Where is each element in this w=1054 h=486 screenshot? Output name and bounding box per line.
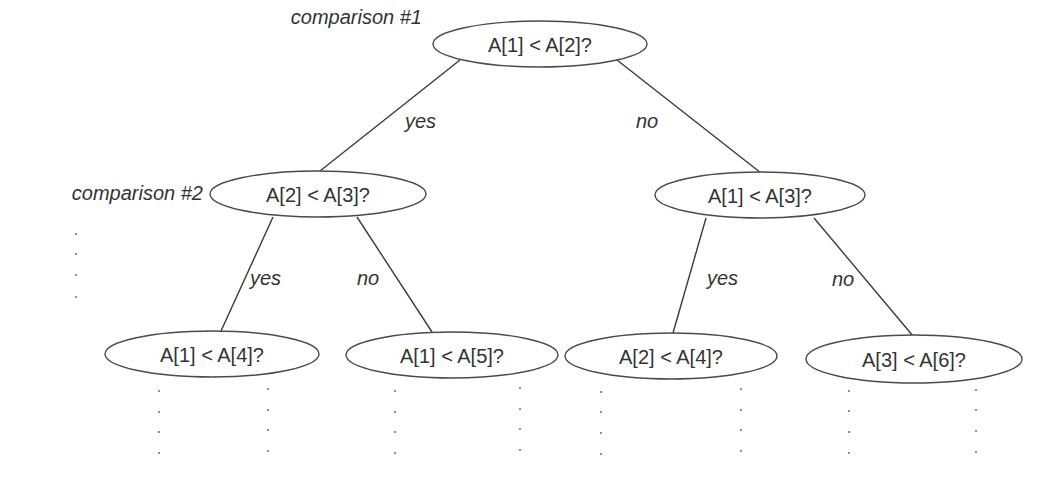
dot-icon: [848, 410, 850, 412]
dot-icon: [975, 451, 977, 453]
dot-icon: [75, 296, 77, 298]
dot-icon: [519, 449, 521, 451]
node-label: A[1] < A[4]?: [160, 344, 264, 366]
dot-icon: [740, 388, 742, 390]
ellipsis-dots-l3-4-left: [848, 390, 850, 454]
dot-icon: [519, 387, 521, 389]
level-label-comparison-1: comparison #1: [291, 6, 422, 28]
dot-icon: [394, 411, 396, 413]
edge-label-no: no: [636, 110, 658, 132]
dot-icon: [848, 452, 850, 454]
node-label: A[1] < A[2]?: [488, 34, 592, 56]
dot-icon: [267, 409, 269, 411]
dot-icon: [848, 431, 850, 433]
node-label: A[3] < A[6]?: [862, 349, 966, 371]
edge-root-to-l2-left: yes: [320, 60, 460, 171]
dot-icon: [519, 428, 521, 430]
dot-icon: [600, 453, 602, 455]
dot-icon: [600, 432, 602, 434]
dot-icon: [740, 429, 742, 431]
ellipsis-dots-l3-1-left: [158, 390, 160, 454]
ellipsis-dots-l3-2-right: [519, 387, 521, 451]
node-label: A[1] < A[3]?: [708, 185, 812, 207]
dot-icon: [158, 452, 160, 454]
node-l3-4: A[3] < A[6]?: [806, 335, 1022, 383]
node-label: A[1] < A[5]?: [400, 345, 504, 367]
ellipsis-dots-l3-3-right: [740, 388, 742, 452]
ellipsis-dots-l3-4-right: [975, 389, 977, 453]
edge-root-to-l2-right: no: [617, 60, 761, 173]
dot-icon: [267, 388, 269, 390]
dot-icon: [740, 450, 742, 452]
dot-icon: [158, 431, 160, 433]
edge-label-no: no: [832, 268, 854, 290]
edge-line: [673, 218, 706, 333]
decision-tree-diagram: yesnoyesnoyesno A[1] < A[2]?A[2] < A[3]?…: [0, 0, 1054, 486]
dot-icon: [519, 408, 521, 410]
dot-icon: [394, 452, 396, 454]
dot-icon: [158, 390, 160, 392]
node-l3-3: A[2] < A[4]?: [565, 333, 777, 379]
node-l3-1: A[1] < A[4]?: [105, 331, 319, 377]
dot-icon: [740, 409, 742, 411]
node-label: A[2] < A[3]?: [266, 184, 370, 206]
edge-label-yes: yes: [705, 267, 738, 289]
nodes: A[1] < A[2]?A[2] < A[3]?A[1] < A[3]?A[1]…: [105, 21, 1022, 383]
edge-l2-left-to-l3-2: no: [357, 217, 432, 332]
dot-icon: [75, 233, 77, 235]
ellipsis-dots-left-margin: [75, 233, 77, 298]
ellipsis-dots-l3-3-left: [600, 391, 602, 455]
node-root: A[1] < A[2]?: [433, 21, 647, 67]
edge-l2-right-to-l3-4: no: [814, 218, 913, 336]
dot-icon: [75, 274, 77, 276]
ellipsis-dots-l3-1-right: [267, 388, 269, 452]
node-label: A[2] < A[4]?: [619, 346, 723, 368]
dot-icon: [158, 411, 160, 413]
dot-icon: [975, 430, 977, 432]
dot-icon: [600, 411, 602, 413]
ellipsis-dots-l3-2-left: [394, 390, 396, 454]
dot-icon: [394, 431, 396, 433]
edge-l2-left-to-l3-1: yes: [221, 217, 281, 331]
dot-icon: [267, 450, 269, 452]
edge-l2-right-to-l3-3: yes: [673, 218, 738, 333]
node-l2-left: A[2] < A[3]?: [210, 171, 426, 217]
edge-label-yes: yes: [248, 267, 281, 289]
dot-icon: [394, 390, 396, 392]
node-l3-2: A[1] < A[5]?: [346, 332, 558, 378]
dot-icon: [600, 391, 602, 393]
edge-line: [320, 60, 460, 171]
edge-label-no: no: [357, 267, 379, 289]
dot-icon: [848, 390, 850, 392]
dot-icon: [75, 253, 77, 255]
edge-label-yes: yes: [403, 110, 436, 132]
level-label-comparison-2: comparison #2: [72, 182, 203, 204]
dot-icon: [975, 409, 977, 411]
edge-line: [814, 218, 913, 336]
dot-icon: [975, 389, 977, 391]
node-l2-right: A[1] < A[3]?: [655, 172, 865, 218]
dot-icon: [267, 429, 269, 431]
